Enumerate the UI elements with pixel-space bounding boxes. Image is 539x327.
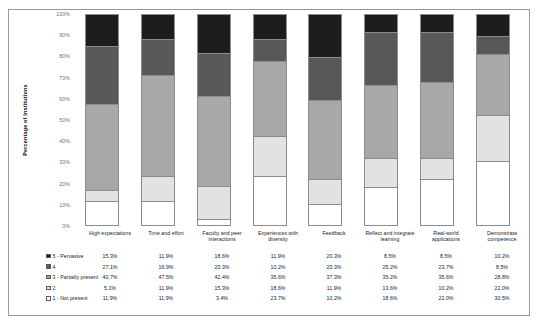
table-cell-value: 11.9% bbox=[82, 295, 138, 301]
bar-segment[interactable] bbox=[85, 46, 119, 103]
bar-segment[interactable] bbox=[197, 219, 231, 226]
stacked-bar[interactable] bbox=[308, 14, 342, 226]
table-cell-value: 23.7% bbox=[418, 264, 474, 270]
table-cell-value: 8.5% bbox=[474, 264, 530, 270]
bar-segment[interactable] bbox=[308, 100, 342, 179]
bar-segment[interactable] bbox=[308, 14, 342, 57]
table-cell-value: 28.8% bbox=[474, 274, 530, 280]
bar-segment[interactable] bbox=[420, 158, 454, 180]
bar-segment[interactable] bbox=[420, 32, 454, 82]
data-table: High expectationsTime and effortFaculty … bbox=[8, 230, 530, 316]
bar-segment[interactable] bbox=[364, 32, 398, 85]
bar-segment[interactable] bbox=[197, 53, 231, 96]
table-cell-value: 18.6% bbox=[194, 253, 250, 259]
bar-segment[interactable] bbox=[253, 136, 287, 175]
bar-segment[interactable] bbox=[476, 161, 510, 226]
table-cell-value: 5.1% bbox=[82, 285, 138, 291]
table-cell-value: 18.6% bbox=[362, 295, 418, 301]
table-cell-value: 27.1% bbox=[82, 264, 138, 270]
category-label: Real-world applications bbox=[418, 230, 474, 243]
table-cell-value: 8.5% bbox=[418, 253, 474, 259]
stacked-bar[interactable] bbox=[364, 14, 398, 226]
bar-segment[interactable] bbox=[253, 61, 287, 136]
table-row: 427.1%16.9%20.3%10.2%20.3%25.2%23.7%8.5% bbox=[8, 264, 530, 275]
table-cell-value: 40.7% bbox=[82, 274, 138, 280]
y-axis-tick-label: 20% bbox=[59, 181, 70, 187]
table-cell-value: 42.4% bbox=[194, 274, 250, 280]
legend-item[interactable]: 1 - Not present bbox=[8, 295, 82, 301]
y-axis-tick-label: 40% bbox=[59, 138, 70, 144]
stacked-bar[interactable] bbox=[197, 14, 231, 226]
bar-segment[interactable] bbox=[253, 14, 287, 39]
stacked-bar[interactable] bbox=[141, 14, 175, 226]
bar-segment[interactable] bbox=[420, 179, 454, 226]
bar-group bbox=[74, 14, 521, 226]
table-cell-value: 11.9% bbox=[306, 285, 362, 291]
bar-segment[interactable] bbox=[476, 115, 510, 162]
legend-swatch-icon bbox=[46, 275, 51, 280]
bar-segment[interactable] bbox=[141, 14, 175, 39]
bar-segment[interactable] bbox=[197, 186, 231, 218]
bar-segment[interactable] bbox=[308, 57, 342, 100]
bar-segment[interactable] bbox=[253, 39, 287, 61]
table-cell-value: 10.2% bbox=[474, 253, 530, 259]
table-cell-value: 47.5% bbox=[138, 274, 194, 280]
bar-segment[interactable] bbox=[308, 179, 342, 204]
legend-item[interactable]: 4 bbox=[8, 264, 82, 270]
bar-segment[interactable] bbox=[141, 176, 175, 201]
y-axis-tick-label: 80% bbox=[59, 53, 70, 59]
bar-segment[interactable] bbox=[85, 14, 119, 46]
table-cell-value: 15.3% bbox=[82, 253, 138, 259]
table-cell-value: 10.2% bbox=[418, 285, 474, 291]
table-cell-value: 11.9% bbox=[250, 253, 306, 259]
table-row: 1 - Not present11.9%11.9%3.4%23.7%10.2%1… bbox=[8, 295, 530, 306]
legend-item-label: 4 bbox=[53, 264, 56, 270]
bar-segment[interactable] bbox=[85, 104, 119, 190]
stacked-bar[interactable] bbox=[476, 14, 510, 226]
bar-segment[interactable] bbox=[364, 158, 398, 187]
bar-segment[interactable] bbox=[364, 85, 398, 159]
stacked-bar[interactable] bbox=[420, 14, 454, 226]
bar-segment[interactable] bbox=[197, 96, 231, 186]
stacked-bar[interactable] bbox=[85, 14, 119, 226]
table-cell-value: 30.5% bbox=[474, 295, 530, 301]
bar-segment[interactable] bbox=[364, 14, 398, 32]
table-cell-value: 13.6% bbox=[362, 285, 418, 291]
bar-segment[interactable] bbox=[197, 14, 231, 53]
legend-swatch-icon bbox=[46, 286, 51, 291]
bar-segment[interactable] bbox=[308, 204, 342, 226]
bar-segment[interactable] bbox=[85, 201, 119, 226]
y-axis-tick-label: 90% bbox=[59, 32, 70, 38]
category-label: Feedback bbox=[306, 230, 362, 236]
category-label: Demonstrate competence bbox=[474, 230, 530, 243]
bar-segment[interactable] bbox=[476, 14, 510, 36]
legend-item[interactable]: 2 bbox=[8, 285, 82, 291]
table-cell-value: 37.3% bbox=[306, 274, 362, 280]
legend-item[interactable]: 5 - Pervasive bbox=[8, 253, 82, 259]
stacked-bar[interactable] bbox=[253, 14, 287, 226]
figure-root: Percentage of Institutions 100%90%80%70%… bbox=[0, 0, 539, 327]
bar-segment[interactable] bbox=[141, 201, 175, 226]
table-cell-value: 15.3% bbox=[194, 285, 250, 291]
table-cell-value: 35.6% bbox=[250, 274, 306, 280]
table-row: 5 - Pervasive15.3%11.9%18.6%11.9%20.3%8.… bbox=[8, 253, 530, 264]
table-cell-value: 25.2% bbox=[362, 264, 418, 270]
bar-segment[interactable] bbox=[85, 190, 119, 201]
table-cell-value: 3.4% bbox=[194, 295, 250, 301]
bar-segment[interactable] bbox=[420, 14, 454, 32]
bar-segment[interactable] bbox=[364, 187, 398, 226]
legend-item[interactable]: 3 - Partially present bbox=[8, 274, 82, 280]
y-axis-tick-label: 70% bbox=[59, 75, 70, 81]
y-axis-tick-label: 30% bbox=[59, 159, 70, 165]
table-cell-value: 11.9% bbox=[138, 253, 194, 259]
bar-segment[interactable] bbox=[476, 36, 510, 54]
bar-segment[interactable] bbox=[141, 75, 175, 176]
bar-segment[interactable] bbox=[141, 39, 175, 75]
bar-segment[interactable] bbox=[476, 54, 510, 115]
table-cell-value: 11.9% bbox=[138, 285, 194, 291]
bar-segment[interactable] bbox=[253, 176, 287, 226]
table-cell-value: 22.0% bbox=[474, 285, 530, 291]
table-cell-value: 18.6% bbox=[250, 285, 306, 291]
legend-swatch-icon bbox=[46, 296, 51, 301]
bar-segment[interactable] bbox=[420, 82, 454, 157]
